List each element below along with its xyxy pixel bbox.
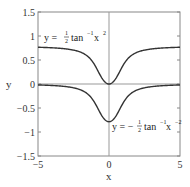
svg-text:y = −: y = − xyxy=(112,121,134,132)
y-tick-label: −1 xyxy=(24,127,35,138)
x-axis-label: x xyxy=(106,170,112,182)
svg-text:2: 2 xyxy=(103,30,106,36)
y-axis-label: y xyxy=(6,78,12,90)
annotation-lower-curve: y = − 1 2 tan −1 x −2 xyxy=(112,119,181,133)
svg-text:x: x xyxy=(166,121,171,132)
svg-text:1: 1 xyxy=(65,30,68,36)
y-tick-label: 0 xyxy=(30,79,35,90)
x-tick-label: 0 xyxy=(107,159,112,170)
x-ticks: −505 xyxy=(33,159,183,170)
svg-text:y =: y = xyxy=(44,32,58,43)
x-tick-label: 5 xyxy=(178,159,183,170)
annotation-upper-curve: y = 1 2 tan −1 x 2 xyxy=(44,30,106,44)
y-tick-label: 1 xyxy=(30,31,35,42)
y-tick-label: 0.5 xyxy=(23,55,36,66)
svg-text:2: 2 xyxy=(65,38,68,44)
svg-text:1: 1 xyxy=(138,119,141,125)
y-tick-label: −0.5 xyxy=(17,103,35,114)
x-tick-label: −5 xyxy=(33,159,44,170)
svg-text:tan: tan xyxy=(71,32,83,43)
svg-text:−2: −2 xyxy=(175,119,181,125)
svg-text:x: x xyxy=(94,32,99,43)
chart: 1.510.50−0.5−1−1.5 −505 y x y = 1 2 tan … xyxy=(0,0,190,187)
svg-text:2: 2 xyxy=(138,127,141,133)
y-tick-label: 1.5 xyxy=(23,7,36,18)
svg-text:tan: tan xyxy=(144,121,156,132)
svg-text:−1: −1 xyxy=(87,30,93,36)
